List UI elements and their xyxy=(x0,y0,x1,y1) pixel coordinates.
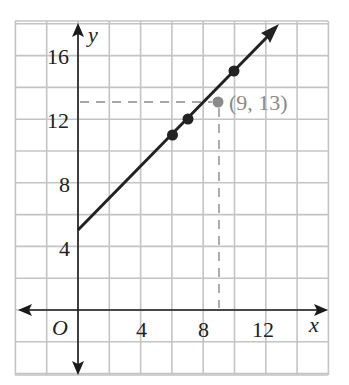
data-point-7-12 xyxy=(183,114,194,125)
data-point-10-15 xyxy=(229,66,240,77)
highlight-point-label: (9, 13) xyxy=(229,90,288,115)
y-tick-12: 12 xyxy=(47,108,69,133)
origin-label: O xyxy=(52,315,68,340)
x-axis-label: x xyxy=(308,312,319,337)
tick-labels: 4 8 12 4 8 12 16 xyxy=(47,44,274,342)
highlight-point-9-13 xyxy=(213,97,224,108)
x-tick-12: 12 xyxy=(252,317,274,342)
y-axis-label: y xyxy=(86,22,98,47)
x-tick-4: 4 xyxy=(136,317,147,342)
x-tick-8: 8 xyxy=(198,317,209,342)
y-tick-4: 4 xyxy=(59,236,70,261)
coordinate-plane-chart: (9, 13) 4 8 12 4 8 12 16 x y O xyxy=(0,0,349,385)
y-tick-8: 8 xyxy=(59,172,70,197)
y-tick-16: 16 xyxy=(47,44,69,69)
data-point-6-11 xyxy=(167,130,178,141)
